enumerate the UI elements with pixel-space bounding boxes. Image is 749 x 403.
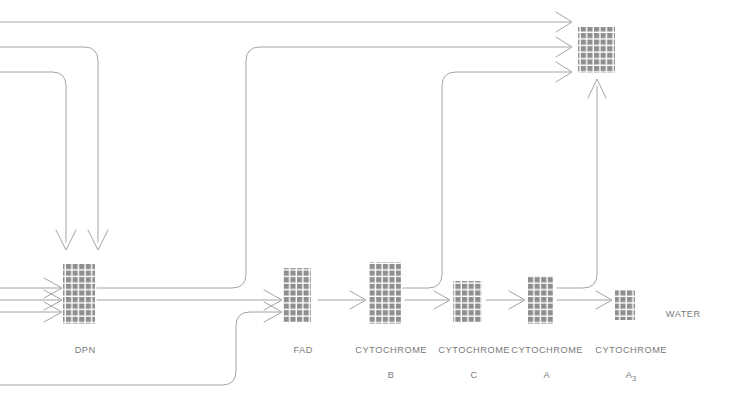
- block-cytochrome-b: [369, 262, 401, 324]
- node-label-fad-text: FAD: [293, 345, 313, 355]
- node-label-fad: FAD: [257, 331, 337, 369]
- label-water: WATER: [647, 295, 707, 333]
- flow-b-to-c: [405, 291, 450, 309]
- label-water-text: WATER: [666, 309, 701, 319]
- node-label-cytochrome-a-sub: A: [544, 370, 551, 380]
- flow-top-feed-2: [0, 47, 108, 250]
- node-label-cytochrome-a3-sub: A3: [626, 370, 637, 380]
- electron-transport-chain-diagram: DPN FAD CYTOCHROME B CYTOCHROME C CYTOCH…: [0, 0, 749, 403]
- flow-dpn-to-fad: [97, 290, 282, 310]
- block-cytochrome-a3: [615, 290, 635, 320]
- node-label-cytochrome-c-sub: C: [471, 370, 478, 380]
- flow-dpn-to-oxygen: [97, 37, 572, 288]
- block-fad: [283, 268, 311, 322]
- block-cytochrome-a: [528, 276, 553, 324]
- flow-a-to-oxygen: [557, 79, 606, 288]
- node-label-dpn: DPN: [39, 331, 119, 369]
- flow-c-to-a: [486, 291, 525, 309]
- flow-b-to-oxygen: [403, 62, 572, 288]
- flow-fad-to-b: [318, 291, 366, 309]
- node-label-cytochrome-a3-text: CYTOCHROME: [595, 345, 667, 355]
- node-label-dpn-text: DPN: [75, 345, 96, 355]
- block-oxygen: [578, 27, 615, 73]
- flow-a-to-a3: [557, 291, 612, 309]
- block-cytochrome-c: [453, 281, 482, 322]
- node-label-cytochrome-b-sub: B: [388, 370, 395, 380]
- block-dpn: [63, 264, 95, 324]
- node-label-cytochrome-a3: CYTOCHROME A3: [570, 331, 680, 397]
- flow-top-line-to-oxygen: [0, 12, 572, 32]
- flow-top-feed-1: [0, 72, 76, 250]
